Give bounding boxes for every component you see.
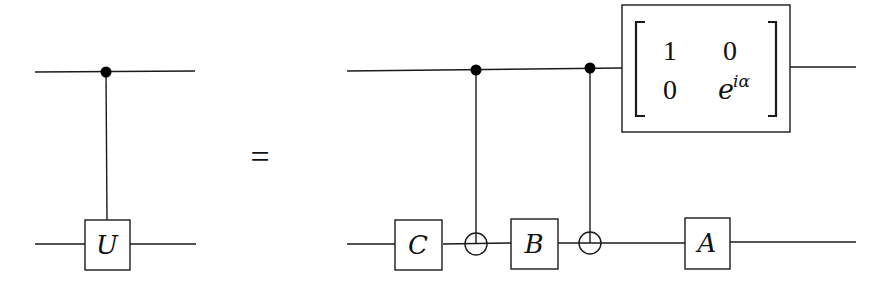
circuit-diagram: U C B A = 1 0 0 e iα — [0, 0, 891, 288]
phase-gate-box — [622, 5, 790, 132]
left-control-dot — [101, 67, 112, 78]
left-top-wire — [35, 71, 195, 72]
gate-B-label: B — [523, 229, 543, 259]
equals-sign: = — [250, 138, 269, 175]
right-bottom-wire-2 — [443, 243, 511, 244]
gate-A-label: A — [696, 228, 717, 258]
right-top-wire-in — [347, 68, 622, 71]
cnot1-control-dot — [471, 65, 482, 76]
cnot2-control-dot — [585, 63, 596, 74]
matrix-entry-22-exponent: iα — [733, 71, 750, 91]
matrix-entry-22-base: e — [718, 74, 734, 105]
matrix-entry-11: 1 — [663, 35, 677, 66]
gate-C-label: C — [408, 230, 428, 260]
matrix-entry-21: 0 — [663, 74, 677, 105]
gate-U-label: U — [96, 230, 119, 260]
left-control-line — [106, 72, 107, 220]
matrix-entry-12: 0 — [723, 35, 737, 66]
